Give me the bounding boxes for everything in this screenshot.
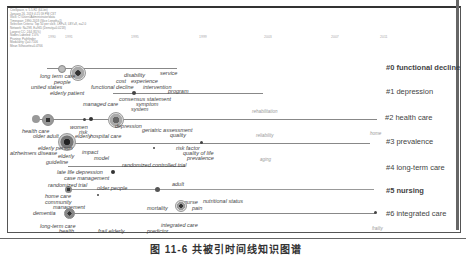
cluster-label-2: #2 health care (385, 113, 433, 122)
cluster-label-4: #4 long-term care (386, 163, 445, 172)
keyword: mortality (147, 205, 168, 211)
cluster-label-3: #3 prevalence (386, 137, 433, 146)
keyword: randomized trial (48, 182, 87, 188)
keyword: reliability (256, 133, 274, 138)
keyword: older adult (33, 133, 59, 139)
node[interactable] (175, 200, 187, 212)
node[interactable] (153, 147, 155, 149)
keyword: depression (115, 123, 142, 129)
cluster-label-6: #6 integrated care (386, 209, 446, 218)
node[interactable] (32, 115, 40, 123)
keyword: frail elderly (98, 228, 125, 234)
node[interactable] (200, 141, 203, 144)
keyword: guideline (46, 159, 68, 165)
node[interactable] (42, 114, 54, 126)
cluster-line-2 (35, 119, 377, 120)
keyword: home (370, 131, 381, 136)
keyword: case management (64, 175, 109, 181)
keyword: alzheimers disease (10, 150, 57, 156)
keyword: elderly patient (50, 90, 84, 96)
year-label: 2011 (380, 35, 388, 39)
keyword: predictor (147, 228, 168, 234)
year-label: 1995 (131, 35, 139, 39)
year-label: 2003 (264, 35, 272, 39)
node[interactable] (374, 211, 377, 214)
keyword: aging (260, 157, 271, 162)
keyword: functional decline (91, 84, 134, 90)
keyword: randomized controlled trial (122, 162, 187, 168)
keyword: nutritional status (203, 198, 243, 204)
cluster-line-3 (70, 143, 370, 144)
node[interactable] (89, 117, 93, 121)
keyword: health (59, 228, 74, 234)
divider (0, 238, 466, 239)
keyword: model (94, 155, 109, 161)
cluster-label-1: #1 depression (386, 87, 433, 96)
keyword: dementia (33, 210, 56, 216)
keyword: program (168, 88, 188, 94)
keyword: frailty (372, 226, 383, 231)
node[interactable] (111, 170, 115, 174)
keyword: system (131, 106, 148, 112)
node[interactable] (83, 118, 86, 121)
node[interactable] (155, 187, 160, 192)
cluster-line-0 (47, 68, 177, 69)
figure-caption: 图 11-6 共被引时间线知识图谱 (150, 241, 302, 256)
node[interactable] (97, 194, 99, 196)
node[interactable] (64, 208, 75, 219)
cluster-label-5: #5 nursing (386, 186, 424, 195)
year-label: 1990 (48, 35, 56, 39)
keyword: prevalence (187, 155, 214, 161)
node[interactable] (58, 65, 66, 73)
frame-border (456, 0, 459, 230)
keyword: managed care (83, 101, 118, 107)
keyword: service (160, 70, 177, 76)
keyword: adult (172, 181, 184, 187)
year-label: 1999 (199, 35, 207, 39)
year-label: 2007 (331, 35, 339, 39)
cluster-label-0: #0 functional decline (386, 63, 460, 72)
keyword: pain (192, 205, 202, 211)
cluster-line-6 (67, 213, 375, 214)
year-label: 1991 (65, 35, 73, 39)
keyword: hospital care (90, 133, 121, 139)
node[interactable] (132, 91, 136, 95)
keyword: quality (170, 132, 186, 138)
keyword: rehabilitation (252, 109, 278, 114)
keyword: older people (97, 185, 127, 191)
header-info: CiteSpace, v. 5.5.R2 (64-bit) January 26… (10, 9, 86, 49)
keyword: elderly (75, 133, 91, 139)
